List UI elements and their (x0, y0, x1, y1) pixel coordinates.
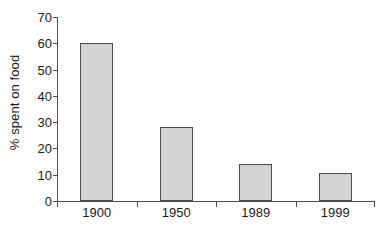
y-axis-title-label: % spent on food (8, 55, 23, 150)
x-axis-tick-labels: 1900195019891999 (57, 206, 375, 230)
y-tick-mark (53, 17, 58, 18)
bar (319, 173, 352, 201)
y-tick-label: 40 (38, 89, 52, 102)
y-tick-mark (53, 43, 58, 44)
y-axis-line (57, 17, 58, 201)
y-tick-mark (53, 175, 58, 176)
y-tick-label: 0 (45, 195, 52, 208)
y-tick-label: 20 (38, 142, 52, 155)
plot-area (57, 17, 375, 201)
y-tick-label: 60 (38, 37, 52, 50)
x-tick-label: 1999 (321, 206, 350, 219)
y-tick-mark (53, 96, 58, 97)
y-tick-label: 70 (38, 11, 52, 24)
y-tick-mark (53, 148, 58, 149)
bar (239, 164, 272, 201)
bar (160, 127, 193, 201)
x-tick-label: 1950 (162, 206, 191, 219)
x-tick-label: 1989 (241, 206, 270, 219)
y-tick-label: 10 (38, 168, 52, 181)
y-tick-label: 50 (38, 63, 52, 76)
y-tick-label: 30 (38, 116, 52, 129)
x-tick-label: 1900 (82, 206, 111, 219)
y-tick-mark (53, 70, 58, 71)
bar (80, 43, 113, 201)
y-axis-tick-labels: 010203040506070 (26, 0, 52, 236)
bar-chart: % spent on food 010203040506070 19001950… (0, 0, 385, 236)
y-tick-mark (53, 122, 58, 123)
